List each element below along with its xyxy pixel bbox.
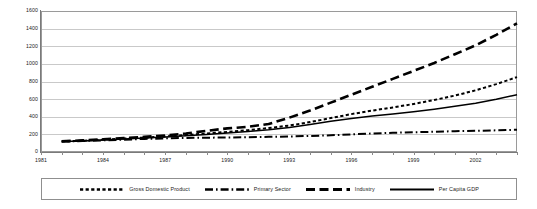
legend-label: Gross Domestic Product <box>129 186 190 192</box>
legend-label: Industry <box>355 186 375 192</box>
legend-label: Per Capita GDP <box>439 186 479 192</box>
series-line-industry <box>62 23 517 141</box>
series-line-primary-sector <box>62 130 517 142</box>
legend-item-industry[interactable]: Industry <box>305 185 375 194</box>
dashed-line-swatch <box>305 185 351 194</box>
legend-item-primary-sector[interactable]: Primary Sector <box>204 185 291 194</box>
legend-item-per-capita-gdp[interactable]: Per Capita GDP <box>389 185 479 194</box>
chart-container: 16001400120010008006004002000 1981198419… <box>0 0 537 209</box>
chart-legend: Gross Domestic ProductPrimary SectorIndu… <box>41 178 517 200</box>
legend-item-gross-domestic-product[interactable]: Gross Domestic Product <box>79 185 190 194</box>
legend-label: Primary Sector <box>254 186 291 192</box>
solid-line-swatch <box>389 185 435 194</box>
series-line-gross-domestic-product <box>62 77 517 141</box>
series-line-per-capita-gdp <box>62 95 517 142</box>
dotted-line-swatch <box>79 185 125 194</box>
dash-dot-line-swatch <box>204 185 250 194</box>
